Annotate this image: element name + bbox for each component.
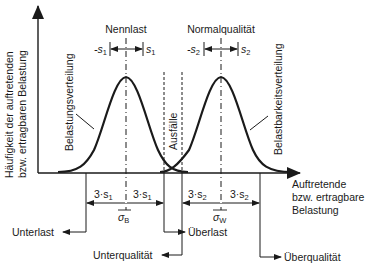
interference-diagram: Häufigkeit der auftretenden bzw. ertragb… [0,0,366,268]
x-axis-label-line1: Auftretende [292,178,346,190]
nominal-load-label: Nennlast [105,23,147,35]
underload-label: Unterlast [12,226,54,238]
s1-indicator: -s1 s1 [94,42,155,57]
strength-distribution-leader [250,116,268,130]
sigma-w-label: σW [213,211,227,225]
minus-s1-label: -s1 [94,43,107,57]
failures-label: Ausfälle [167,112,179,150]
sigma-b-label: σB [118,211,129,225]
normal-quality-label: Normalqualität [187,23,255,35]
strength-left-3s: 3·s2 [188,188,207,202]
dimension-load: 3·s1 3·s1 σB [87,188,163,225]
plus-s2-label: s2 [241,43,250,57]
y-axis-label-line2: bzw. ertragbaren Belastung [16,50,28,178]
strength-distribution-label: Belastbarkeitsverteilung [272,43,284,155]
s2-indicator: -s2 s2 [187,42,250,57]
load-right-3s: 3·s1 [133,188,152,202]
x-axis-label: Auftretende bzw. ertragbare Belastung [292,178,365,216]
overquality-label: Überqualität [284,251,341,263]
plus-s1-label: s1 [146,43,155,57]
overload-label: Überlast [188,226,227,238]
y-axis-label-line1: Häufigkeit der auftretenden [3,51,15,178]
y-axis-label: Häufigkeit der auftretenden bzw. ertragb… [3,50,28,178]
load-left-3s: 3·s1 [94,188,113,202]
x-axis-label-line3: Belastung [292,204,339,216]
load-distribution-label: Belastungsverteilung [63,53,75,151]
x-axis-label-line2: bzw. ertragbare [292,191,365,203]
strength-right-3s: 3·s2 [230,188,249,202]
dimension-strength: 3·s2 3·s2 σW [183,188,259,225]
minus-s2-label: -s2 [187,43,200,57]
underquality-label: Unterqualität [93,249,153,261]
load-distribution-leader [76,114,94,129]
